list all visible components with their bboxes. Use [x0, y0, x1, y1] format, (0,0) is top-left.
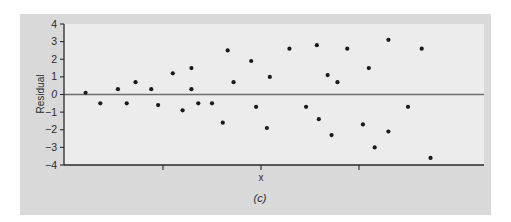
- data-point: [249, 59, 253, 63]
- data-point: [265, 126, 269, 130]
- data-point: [367, 66, 371, 70]
- data-point: [254, 105, 258, 109]
- y-tick-label: 1: [51, 70, 57, 82]
- y-tick-label: −2: [45, 123, 57, 135]
- y-axis-title: Residual: [35, 75, 46, 114]
- data-point: [361, 122, 365, 126]
- residual-scatter-chart: 43210−1−2−3−4 Residual x (c): [0, 0, 511, 222]
- y-axis-ticks: 43210−1−2−3−4: [45, 18, 64, 171]
- data-point: [171, 71, 175, 75]
- data-point: [406, 105, 410, 109]
- data-point: [345, 47, 349, 51]
- data-point: [373, 145, 377, 149]
- data-point: [189, 87, 193, 91]
- y-tick-label: 3: [51, 35, 57, 47]
- data-point: [386, 38, 390, 42]
- x-axis-title: x: [259, 172, 264, 183]
- data-point: [386, 129, 390, 133]
- data-point: [181, 108, 185, 112]
- data-point: [226, 48, 230, 52]
- data-point: [221, 121, 225, 125]
- data-point: [210, 101, 214, 105]
- data-point: [428, 156, 432, 160]
- data-point: [149, 87, 153, 91]
- data-point: [420, 47, 424, 51]
- y-tick-label: 4: [51, 18, 57, 30]
- data-point: [335, 80, 339, 84]
- data-point: [326, 73, 330, 77]
- data-point: [125, 101, 129, 105]
- data-point: [83, 91, 87, 95]
- data-points: [83, 38, 432, 160]
- data-point: [156, 103, 160, 107]
- y-tick-label: 2: [51, 53, 57, 65]
- data-point: [189, 66, 193, 70]
- y-tick-label: −3: [45, 141, 57, 153]
- y-tick-label: 0: [51, 88, 57, 100]
- figure-caption: (c): [254, 192, 267, 204]
- data-point: [268, 75, 272, 79]
- y-tick-label: −4: [45, 159, 57, 171]
- data-point: [196, 101, 200, 105]
- data-point: [304, 105, 308, 109]
- data-point: [133, 80, 137, 84]
- y-tick-label: −1: [45, 106, 57, 118]
- data-point: [287, 47, 291, 51]
- data-point: [116, 87, 120, 91]
- data-point: [329, 133, 333, 137]
- data-point: [317, 117, 321, 121]
- data-point: [98, 101, 102, 105]
- data-point: [231, 80, 235, 84]
- data-point: [315, 43, 319, 47]
- x-axis-ticks: [163, 165, 359, 170]
